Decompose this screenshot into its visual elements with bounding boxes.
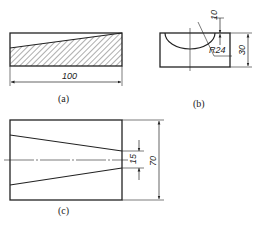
caption-c: (c) bbox=[58, 205, 69, 217]
caption-b: (b) bbox=[193, 98, 205, 110]
dim-label-10: 10 bbox=[209, 10, 219, 20]
caption-a: (a) bbox=[58, 93, 69, 105]
figure-c: 15 70 (c) bbox=[4, 120, 164, 217]
taper-line-bottom bbox=[10, 168, 122, 185]
dim-label-70: 70 bbox=[148, 156, 158, 166]
figure-b: R24 10 30 (b) bbox=[160, 10, 252, 110]
taper-line-top bbox=[10, 135, 122, 151]
technical-drawing: 100 (a) R24 10 30 (b) 15 70 (c) bbox=[0, 0, 257, 228]
figure-a: 100 (a) bbox=[10, 33, 122, 105]
hatched-wedge bbox=[10, 33, 122, 66]
dim-label-15: 15 bbox=[128, 153, 138, 164]
dim-label-100: 100 bbox=[62, 71, 77, 81]
dim-label-30: 30 bbox=[237, 45, 247, 55]
dim-label-r24: R24 bbox=[209, 45, 226, 55]
